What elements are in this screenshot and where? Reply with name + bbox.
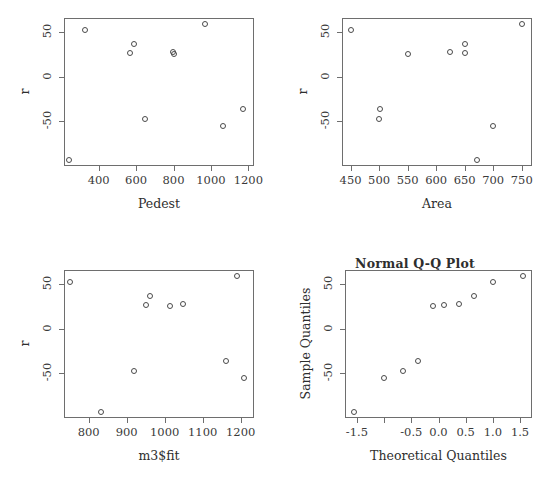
residuals-vs-area-xtick (408, 166, 409, 171)
residuals-vs-fitted-xtick (203, 418, 204, 423)
residuals-vs-area-xtick-label: 750 (511, 173, 533, 187)
residuals-vs-pedest-xlabel: Pedest (64, 196, 254, 211)
residuals-vs-fitted-panel: 800900100011001200500-50m3$fitr (0, 251, 277, 502)
residuals-vs-pedest-xtick (136, 166, 137, 171)
normal-qq-plot-xtick (439, 418, 440, 423)
residuals-vs-fitted-xtick-label: 1200 (226, 425, 255, 439)
normal-qq-plot-title: Normal Q-Q Plot (277, 256, 553, 271)
residuals-vs-fitted-ytick-label: 0 (40, 315, 54, 341)
residuals-vs-fitted-ytick (59, 373, 64, 374)
residuals-vs-fitted-ytick (59, 329, 64, 330)
residuals-vs-area-xtick (436, 166, 437, 171)
normal-qq-plot-plot-area (345, 270, 532, 418)
residuals-vs-area-data-point (376, 116, 382, 122)
residuals-vs-area-ytick (337, 77, 342, 78)
residuals-vs-fitted-data-point (180, 301, 186, 307)
residuals-vs-pedest-xtick-label: 600 (125, 173, 147, 187)
residuals-vs-area-ytick-label: -50 (318, 107, 332, 133)
residuals-vs-pedest-xtick (211, 166, 212, 171)
residuals-vs-fitted-ytick-label: 50 (40, 270, 54, 296)
residuals-vs-pedest-data-point (220, 123, 226, 129)
residuals-vs-area-xtick-label: 700 (482, 173, 504, 187)
normal-qq-plot-data-point (456, 301, 462, 307)
residuals-vs-area-ytick-label: 50 (318, 18, 332, 44)
residuals-vs-fitted-ytick-label: -50 (40, 359, 54, 385)
residuals-vs-pedest-xtick (99, 166, 100, 171)
residuals-vs-area-ytick-label: 0 (318, 63, 332, 89)
residuals-vs-pedest-data-point (127, 50, 133, 56)
normal-qq-plot-xtick-label: 0.0 (429, 425, 447, 439)
residuals-vs-area-data-point (447, 49, 453, 55)
residuals-vs-pedest-xtick-label: 800 (163, 173, 185, 187)
residuals-vs-area-xtick (465, 166, 466, 171)
residuals-vs-fitted-ytick (59, 284, 64, 285)
normal-qq-plot-xtick-label: -0.5 (400, 425, 422, 439)
normal-qq-plot-data-point (441, 302, 447, 308)
normal-qq-plot-ytick-label: 50 (321, 270, 335, 296)
normal-qq-plot-ylabel: Sample Quantiles (298, 269, 313, 419)
residuals-vs-fitted-xtick (89, 418, 90, 423)
residuals-vs-area-xtick-label: 600 (425, 173, 447, 187)
residuals-vs-fitted-xlabel: m3$fit (64, 448, 254, 463)
normal-qq-plot-xtick-label: 1.0 (484, 425, 502, 439)
residuals-vs-pedest-xtick-label: 400 (88, 173, 110, 187)
residuals-vs-fitted-data-point (131, 368, 137, 374)
residuals-vs-pedest-xtick (248, 166, 249, 171)
residuals-vs-fitted-data-point (223, 358, 229, 364)
residuals-vs-fitted-xtick (165, 418, 166, 423)
normal-qq-plot-data-point (415, 358, 421, 364)
residuals-vs-area-data-point (490, 123, 496, 129)
residuals-vs-area-data-point (405, 51, 411, 57)
residuals-vs-area-xtick (351, 166, 352, 171)
normal-qq-plot-ytick (340, 284, 345, 285)
residuals-vs-area-xtick-label: 500 (368, 173, 390, 187)
residuals-vs-fitted-plot-area (64, 270, 254, 418)
normal-qq-plot-data-point (400, 368, 406, 374)
residuals-vs-area-xtick (522, 166, 523, 171)
residuals-vs-pedest-data-point (66, 157, 72, 163)
residuals-vs-fitted-xtick-label: 1000 (150, 425, 179, 439)
normal-qq-plot-data-point (471, 293, 477, 299)
normal-qq-plot-xtick-label: 0.5 (457, 425, 475, 439)
normal-qq-plot-xtick-label: 1.5 (511, 425, 529, 439)
residuals-vs-area-xlabel: Area (342, 196, 532, 211)
normal-qq-plot-ytick (340, 373, 345, 374)
residuals-vs-pedest-ytick (59, 77, 64, 78)
normal-qq-plot-xtick (493, 418, 494, 423)
residuals-vs-pedest-data-point (171, 51, 177, 57)
normal-qq-plot-xtick (384, 418, 385, 423)
residuals-vs-pedest-ytick-label: 50 (40, 18, 54, 44)
residuals-vs-pedest-data-point (82, 27, 88, 33)
residuals-vs-fitted-xtick-label: 1100 (188, 425, 217, 439)
normal-qq-plot-xtick (411, 418, 412, 423)
residuals-vs-pedest-xtick (174, 166, 175, 171)
residuals-vs-fitted-data-point (98, 409, 104, 415)
residuals-vs-area-xtick (379, 166, 380, 171)
residuals-vs-fitted-data-point (143, 302, 149, 308)
normal-qq-plot-data-point (520, 273, 526, 279)
residuals-vs-area-data-point (462, 41, 468, 47)
residuals-vs-fitted-data-point (234, 273, 240, 279)
residuals-vs-pedest-ytick-label: -50 (40, 107, 54, 133)
residuals-vs-pedest-ytick-label: 0 (40, 63, 54, 89)
normal-qq-plot-data-point (490, 279, 496, 285)
residuals-vs-area-data-point (474, 157, 480, 163)
normal-qq-plot-ytick (340, 329, 345, 330)
residuals-vs-area-xtick-label: 550 (397, 173, 419, 187)
residuals-vs-fitted-xtick (241, 418, 242, 423)
normal-qq-plot-data-point (381, 375, 387, 381)
diagnostic-plot-grid: 40060080010001200500-50Pedestr4505005506… (0, 0, 553, 502)
residuals-vs-area-data-point (519, 21, 525, 27)
normal-qq-plot-xtick-label: -1.5 (346, 425, 368, 439)
normal-qq-plot-data-point (430, 303, 436, 309)
normal-qq-plot-xtick (466, 418, 467, 423)
residuals-vs-pedest-data-point (131, 41, 137, 47)
residuals-vs-pedest-plot-area (64, 18, 254, 166)
residuals-vs-fitted-xtick-label: 800 (78, 425, 100, 439)
residuals-vs-area-panel: 450500550600650700750500-50Arear (277, 0, 553, 251)
residuals-vs-fitted-data-point (167, 303, 173, 309)
residuals-vs-fitted-data-point (147, 293, 153, 299)
residuals-vs-fitted-ylabel: r (17, 269, 32, 419)
residuals-vs-area-ytick (337, 32, 342, 33)
residuals-vs-pedest-xtick-label: 1000 (196, 173, 225, 187)
